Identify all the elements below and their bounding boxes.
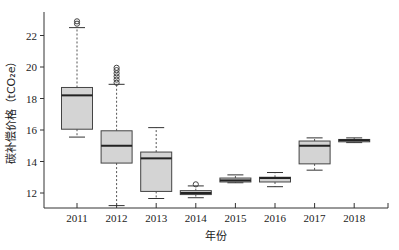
y-tick-label: 16 [26, 124, 38, 136]
boxes [62, 19, 370, 206]
y-tick-label: 14 [26, 156, 38, 168]
box-2018 [339, 138, 370, 143]
box-2012 [101, 65, 132, 205]
y-axis-title: 碳补偿价格（tCO₂e） [4, 56, 18, 165]
y-tick-label: 20 [26, 61, 38, 73]
box-2017 [299, 138, 330, 170]
x-tick-label: 2012 [106, 212, 128, 224]
axes [44, 12, 388, 208]
box-2015 [220, 175, 251, 183]
box-2011 [62, 19, 93, 137]
x-tick-label: 2016 [264, 212, 287, 224]
y-ticks: 121416182022 [26, 30, 44, 200]
iqr-box [62, 87, 93, 129]
box-plot-chart: 121416182022 201120122013201420152016201… [0, 0, 399, 250]
y-tick-label: 18 [26, 93, 38, 105]
y-tick-label: 22 [26, 30, 37, 42]
x-tick-label: 2013 [145, 212, 168, 224]
y-tick-label: 12 [26, 187, 37, 199]
x-tick-label: 2014 [185, 212, 208, 224]
x-axis-title: 年份 [205, 229, 227, 243]
x-tick-label: 2018 [343, 212, 366, 224]
box-2014 [180, 182, 211, 198]
iqr-box [299, 141, 330, 164]
x-tick-label: 2015 [224, 212, 247, 224]
x-tick-label: 2017 [304, 212, 327, 224]
iqr-box [101, 131, 132, 163]
box-2016 [260, 173, 291, 187]
x-ticks: 20112012201320142015201620172018 [66, 203, 365, 224]
box-2013 [141, 128, 172, 199]
x-tick-label: 2011 [66, 212, 88, 224]
